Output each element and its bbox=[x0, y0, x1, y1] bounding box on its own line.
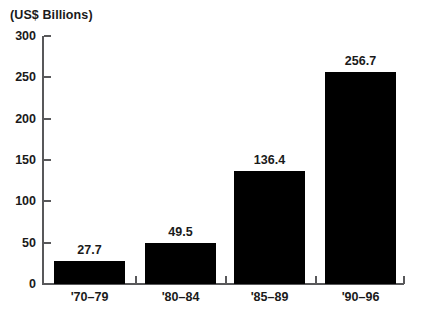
bar-value-label: 136.4 bbox=[254, 153, 285, 167]
x-axis-category-label: '85–89 bbox=[251, 290, 289, 304]
y-axis-tick bbox=[44, 200, 51, 202]
y-axis-tick-label: 200 bbox=[0, 112, 36, 126]
y-axis-tick bbox=[44, 242, 51, 244]
y-axis-tick-label: 150 bbox=[0, 153, 36, 167]
x-axis-category-label: '70–79 bbox=[71, 290, 109, 304]
x-axis-tick bbox=[225, 276, 227, 284]
y-axis-tick bbox=[44, 159, 51, 161]
bar bbox=[54, 261, 125, 284]
bar-value-label: 27.7 bbox=[77, 243, 101, 257]
y-axis-tick-label: 250 bbox=[0, 70, 36, 84]
bar-chart: (US$ Billions) 050100150200250300 27.749… bbox=[0, 0, 421, 319]
x-axis-category-label: '90–96 bbox=[342, 290, 380, 304]
bar-value-label: 256.7 bbox=[345, 54, 376, 68]
bar bbox=[325, 72, 396, 284]
y-axis-tick-label: 300 bbox=[0, 29, 36, 43]
y-axis-title: (US$ Billions) bbox=[10, 8, 93, 22]
x-axis-tick bbox=[403, 276, 405, 284]
y-axis-tick bbox=[44, 76, 51, 78]
x-axis-tick bbox=[315, 276, 317, 284]
y-axis-tick bbox=[44, 35, 51, 37]
bar bbox=[145, 243, 216, 284]
x-axis-tick bbox=[135, 276, 137, 284]
x-axis-category-label: '80–84 bbox=[162, 290, 200, 304]
y-axis-tick-label: 100 bbox=[0, 194, 36, 208]
y-axis-tick bbox=[44, 283, 51, 285]
bar-value-label: 49.5 bbox=[168, 225, 192, 239]
y-axis-tick bbox=[44, 118, 51, 120]
y-axis-tick-label: 50 bbox=[0, 236, 36, 250]
bar bbox=[234, 171, 305, 284]
y-axis-tick-label: 0 bbox=[0, 277, 36, 291]
